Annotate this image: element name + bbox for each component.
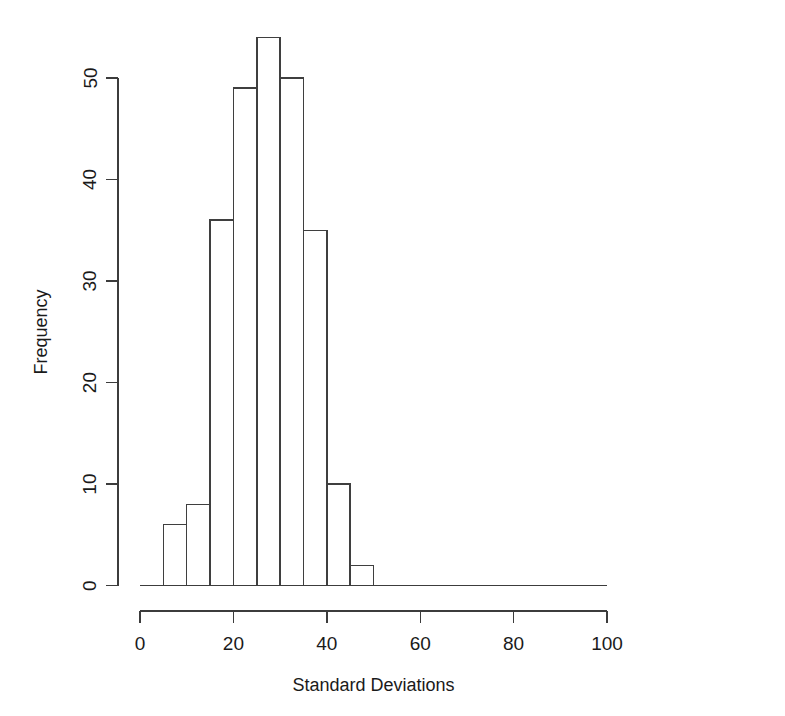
histogram-bar: [303, 230, 326, 585]
y-axis-tick-label: 0: [80, 580, 101, 591]
x-axis-tick-label: 40: [316, 633, 337, 654]
y-axis-tick-labels: 01020304050: [80, 67, 101, 590]
y-axis-tick-label: 30: [80, 270, 101, 291]
x-axis-tick-label: 80: [503, 633, 524, 654]
x-axis-tick-label: 0: [135, 633, 146, 654]
x-axis-tick-labels: 020406080100: [135, 633, 623, 654]
histogram-plot: 01020304050 020406080100 Standard Deviat…: [0, 0, 785, 716]
y-axis-tick-label: 40: [80, 169, 101, 190]
y-axis-ticks: [106, 78, 118, 586]
y-axis-tick-label: 20: [80, 372, 101, 393]
x-axis-ticks: [140, 611, 607, 623]
histogram-bar: [257, 37, 280, 585]
bars-group: [163, 37, 373, 585]
y-axis-tick-label: 10: [80, 474, 101, 495]
x-axis-tick-label: 20: [223, 633, 244, 654]
histogram-bar: [187, 504, 210, 585]
y-axis-tick-label: 50: [80, 67, 101, 88]
y-axis-title: Frequency: [31, 289, 51, 374]
histogram-bar: [233, 88, 256, 585]
histogram-bar: [327, 484, 350, 586]
x-axis-tick-label: 100: [591, 633, 623, 654]
x-axis-tick-label: 60: [410, 633, 431, 654]
x-axis-title: Standard Deviations: [292, 675, 454, 695]
histogram-bar: [280, 78, 303, 586]
histogram-bar: [210, 220, 233, 585]
histogram-bar: [350, 565, 373, 585]
histogram-canvas: 01020304050 020406080100 Standard Deviat…: [0, 0, 785, 716]
histogram-bar: [163, 525, 186, 586]
